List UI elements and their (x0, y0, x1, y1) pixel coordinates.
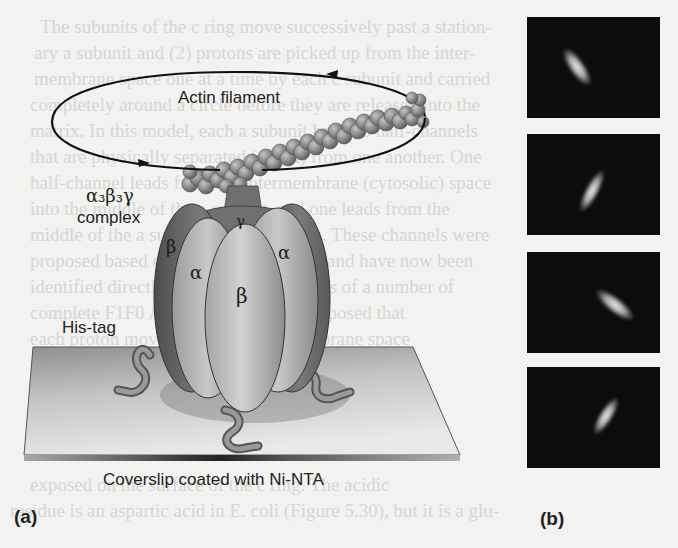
alpha-left-label: α (190, 262, 202, 283)
fluorescent-filament (589, 394, 623, 437)
beta-left-label: β (166, 236, 176, 257)
complex-formula-label: α₃β₃γ (86, 185, 134, 206)
gamma-label: γ (236, 212, 245, 230)
coverslip-label: Coverslip coated with Ni-NTA (103, 470, 324, 490)
fluorescent-filament (558, 44, 596, 89)
subunit-beta-center (205, 224, 285, 412)
micrograph-frame-4 (527, 367, 660, 468)
micrograph-frame-1 (527, 17, 660, 118)
rotation-assay-diagram (0, 0, 520, 548)
alpha-right-label: α (278, 242, 290, 263)
micrograph-frame-3 (527, 252, 660, 353)
micrograph-frame-2 (527, 134, 660, 235)
his-tag-label: His-tag (62, 318, 116, 338)
fluorescent-filament (575, 167, 609, 214)
complex-word-label: complex (77, 208, 140, 228)
actin-filament-label: Actin filament (178, 88, 280, 108)
figure-a: Actin filament α₃β₃γ complex γ β α β α H… (0, 0, 520, 548)
fluorescent-filament (592, 285, 638, 326)
panel-a-label: (a) (14, 506, 37, 528)
panel-b-label: (b) (540, 508, 564, 530)
beta-center-label: β (236, 284, 248, 308)
